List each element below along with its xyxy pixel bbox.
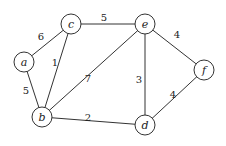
node-label-d: d xyxy=(141,119,148,132)
node-e: e xyxy=(135,14,155,34)
node-label-e: e xyxy=(142,18,149,31)
graph-diagram: 651572344 acefbd xyxy=(0,0,226,146)
edge-weight-b-e: 7 xyxy=(85,73,91,84)
node-label-c: c xyxy=(68,18,74,31)
edge-weight-c-e: 5 xyxy=(101,12,107,23)
edge-b-e xyxy=(42,24,145,117)
edge-weight-b-d: 2 xyxy=(85,112,91,123)
edge-weight-a-c: 6 xyxy=(38,31,44,42)
edge-c-b xyxy=(42,24,71,117)
edge-weight-e-d: 3 xyxy=(136,74,142,85)
node-label-b: b xyxy=(38,111,45,124)
node-f: f xyxy=(194,60,214,80)
edge-weight-d-f: 4 xyxy=(170,89,176,100)
edge-weight-a-b: 5 xyxy=(23,85,29,96)
node-a: a xyxy=(14,52,34,72)
weights-layer: 651572344 xyxy=(23,12,180,123)
edge-weight-c-b: 1 xyxy=(52,57,58,68)
node-d: d xyxy=(135,115,155,135)
node-label-a: a xyxy=(21,56,28,69)
edge-b-d xyxy=(42,117,145,125)
edge-weight-e-f: 4 xyxy=(174,29,180,40)
node-c: c xyxy=(61,14,81,34)
node-b: b xyxy=(32,107,52,127)
